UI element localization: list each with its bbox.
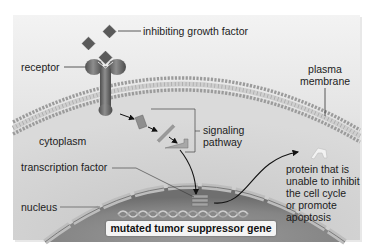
label-protein-line2: unable to inhibit bbox=[286, 175, 360, 187]
label-protein-line4: or promote bbox=[286, 199, 337, 211]
label-nucleus: nucleus bbox=[21, 201, 57, 213]
transcription-factor-icon bbox=[192, 195, 208, 206]
label-protein-line3: the cell cycle bbox=[286, 187, 346, 199]
label-signaling-pathway-line1: signaling bbox=[203, 124, 244, 136]
label-plasma-membrane-line1: plasma bbox=[292, 63, 358, 75]
label-transcription-factor: transcription factor bbox=[21, 161, 107, 173]
diagram-canvas: inhibiting growth factor receptor plasma… bbox=[0, 0, 373, 250]
label-mutated-tumor-suppressor-gene: mutated tumor suppressor gene bbox=[106, 221, 276, 236]
label-protein-line5: apoptosis bbox=[286, 211, 331, 223]
label-receptor: receptor bbox=[21, 61, 60, 73]
label-plasma-membrane-line2: membrane bbox=[292, 75, 358, 87]
label-signaling-pathway-line2: pathway bbox=[203, 136, 242, 148]
label-inhibiting-growth-factor: inhibiting growth factor bbox=[143, 25, 248, 37]
label-protein-line1: protein that is bbox=[286, 163, 349, 175]
label-cytoplasm: cytoplasm bbox=[39, 135, 86, 147]
